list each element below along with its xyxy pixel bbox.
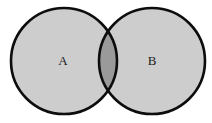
set-a-label: A xyxy=(58,53,68,68)
set-b-label: B xyxy=(148,53,157,68)
venn-diagram-figure: A B xyxy=(0,0,212,123)
venn-diagram-canvas: A B xyxy=(0,0,212,123)
